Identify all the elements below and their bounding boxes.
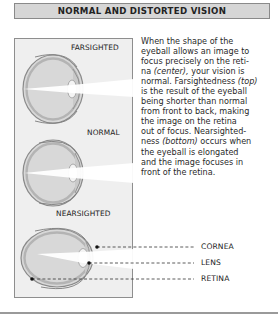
text-run: occurs when <box>198 136 252 146</box>
text-run: your vision is <box>189 66 245 76</box>
callout-cornea: CORNEA <box>201 242 234 251</box>
emphasis-center: (center), <box>154 66 189 76</box>
text-line: When the shape of the <box>141 36 278 46</box>
text-line: eyeball allows an image to <box>141 46 278 56</box>
text-line: normal. Farsightedness (top) <box>141 76 278 86</box>
text-line: ness (bottom) occurs when <box>141 136 278 146</box>
callout-lens: LENS <box>201 258 221 267</box>
cornea-marker-icon <box>95 245 99 249</box>
text-line: the image on the retina <box>141 116 278 126</box>
text-run: normal. Farsightedness <box>141 76 238 86</box>
emphasis-bottom: (bottom) <box>162 136 198 146</box>
text-line: out of focus. Nearsighted- <box>141 126 278 136</box>
text-line: front of the retina. <box>141 167 278 177</box>
text-line: is the result of the eyeball <box>141 86 278 96</box>
text-run: ness <box>141 136 162 146</box>
text-line: the eyeball is elongated <box>141 147 278 157</box>
text-line: being shorter than normal <box>141 96 278 106</box>
text-line: na (center), your vision is <box>141 66 278 76</box>
retina-marker-icon <box>30 277 34 281</box>
lens-marker-icon <box>87 261 91 265</box>
callout-retina: RETINA <box>201 274 229 283</box>
text-line: and the image focuses in <box>141 157 278 167</box>
emphasis-top: (top) <box>238 76 258 86</box>
bottom-divider <box>0 312 278 314</box>
text-line: focus precisely on the reti- <box>141 56 278 66</box>
text-run: na <box>141 66 154 76</box>
description-text: When the shape of the eyeball allows an … <box>141 36 278 177</box>
text-line: from front to back, making <box>141 106 278 116</box>
